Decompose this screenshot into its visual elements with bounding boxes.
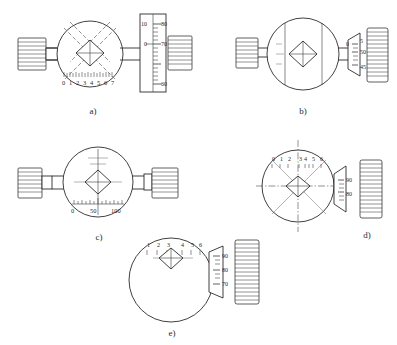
panel-d-drawing: 0 1 2 3 4 5 6 xyxy=(200,132,397,240)
side-drum-d: 90 80 xyxy=(334,166,352,212)
svg-text:5: 5 xyxy=(191,242,194,248)
panel-e: 1 2 3 4 5 6 xyxy=(105,232,295,340)
panel-a-drawing: 0 1 2 3 4 5 6 7 xyxy=(0,2,200,112)
panel-a-caption: a) xyxy=(78,106,108,116)
svg-text:90: 90 xyxy=(346,177,352,183)
knob-right-e[interactable] xyxy=(235,240,259,304)
svg-text:4: 4 xyxy=(181,242,184,248)
svg-text:0: 0 xyxy=(62,79,65,86)
svg-text:50: 50 xyxy=(90,207,96,214)
svg-text:1: 1 xyxy=(280,156,283,162)
svg-text:1: 1 xyxy=(69,79,72,86)
side-drum-b: 0 5 50 45 xyxy=(346,33,366,76)
svg-text:70: 70 xyxy=(161,41,167,47)
svg-text:2: 2 xyxy=(157,242,160,248)
svg-text:0: 0 xyxy=(144,41,147,47)
svg-text:60: 60 xyxy=(161,81,167,87)
svg-text:70: 70 xyxy=(222,281,228,287)
svg-text:0: 0 xyxy=(272,156,275,162)
svg-text:90: 90 xyxy=(222,253,228,259)
svg-text:5: 5 xyxy=(312,156,315,162)
panel-c: 0 50 100 c) xyxy=(10,130,200,240)
svg-text:80: 80 xyxy=(346,191,352,197)
svg-text:2: 2 xyxy=(76,79,79,86)
svg-text:4: 4 xyxy=(304,156,307,162)
side-drum-e: 90 80 70 xyxy=(209,246,228,298)
panel-e-caption: e) xyxy=(157,328,187,338)
svg-text:0: 0 xyxy=(346,41,349,47)
knob-left-b[interactable] xyxy=(236,38,258,68)
svg-text:3: 3 xyxy=(83,79,86,86)
panel-b-drawing: 0 5 50 45 xyxy=(200,2,397,112)
svg-text:5: 5 xyxy=(360,38,363,44)
figure-sheet: 0 1 2 3 4 5 6 7 xyxy=(0,0,397,345)
knob-left-c[interactable] xyxy=(18,168,52,198)
svg-text:80: 80 xyxy=(161,21,167,27)
panel-d-caption: d) xyxy=(352,230,382,240)
svg-text:50: 50 xyxy=(360,49,366,55)
svg-text:3: 3 xyxy=(299,156,302,162)
svg-text:3: 3 xyxy=(167,242,170,248)
panel-b: 0 5 50 45 b) xyxy=(200,2,397,112)
knob-right-a[interactable] xyxy=(168,36,192,70)
svg-text:45: 45 xyxy=(360,64,366,70)
svg-text:5: 5 xyxy=(97,79,100,86)
svg-text:6: 6 xyxy=(199,242,202,248)
knob-right-b[interactable] xyxy=(367,28,388,82)
knob-left-a[interactable] xyxy=(18,38,58,70)
svg-text:2: 2 xyxy=(288,156,291,162)
panel-b-caption: b) xyxy=(288,106,318,116)
panel-a: 0 1 2 3 4 5 6 7 xyxy=(0,2,200,112)
panel-e-drawing: 1 2 3 4 5 6 xyxy=(105,232,295,340)
svg-text:7: 7 xyxy=(111,79,115,86)
svg-text:6: 6 xyxy=(320,156,323,162)
svg-text:0: 0 xyxy=(71,207,74,214)
side-ruler-a: 10 0 80 70 60 xyxy=(140,14,167,92)
svg-text:80: 80 xyxy=(222,267,228,273)
knob-right-d[interactable] xyxy=(360,160,382,218)
svg-text:6: 6 xyxy=(104,79,107,86)
svg-text:10: 10 xyxy=(141,21,147,27)
svg-text:100: 100 xyxy=(111,207,121,214)
panel-d: 0 1 2 3 4 5 6 xyxy=(200,132,397,240)
svg-text:1: 1 xyxy=(147,242,150,248)
knob-right-c[interactable] xyxy=(144,168,178,198)
panel-c-drawing: 0 50 100 xyxy=(10,130,200,240)
